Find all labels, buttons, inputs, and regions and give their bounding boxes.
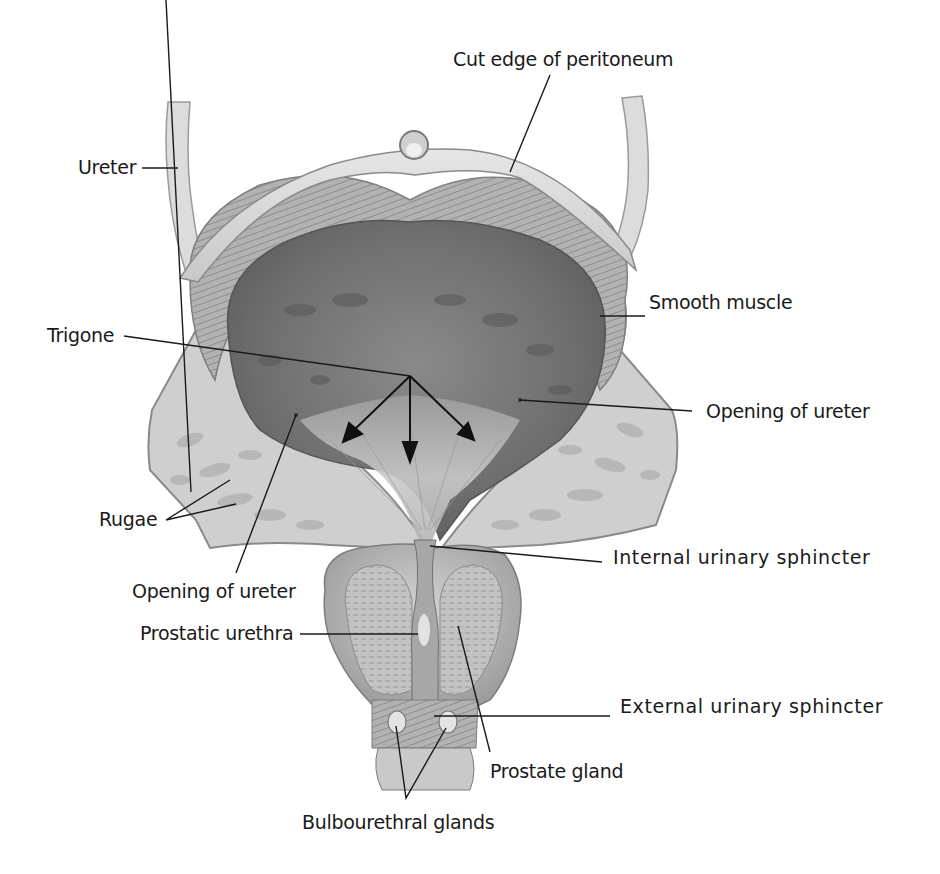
label-ureter: Ureter <box>78 158 136 177</box>
label-internal-urinary-sphincter: Internal urinary sphincter <box>613 548 871 567</box>
label-rugae: Rugae <box>99 510 157 529</box>
label-smooth-muscle: Smooth muscle <box>649 293 792 312</box>
label-bulbourethral-glands: Bulbourethral glands <box>302 813 494 832</box>
label-cut-edge-of-peritoneum: Cut edge of peritoneum <box>453 50 673 69</box>
label-opening-of-ureter-right: Opening of ureter <box>706 402 870 421</box>
bladder-anatomy-diagram <box>0 0 940 874</box>
external-sphincter <box>372 700 478 790</box>
label-prostatic-urethra: Prostatic urethra <box>140 624 293 643</box>
bulbourethral-gland-right <box>439 711 457 733</box>
label-trigone: Trigone <box>47 326 114 345</box>
label-prostate-gland: Prostate gland <box>490 762 623 781</box>
leader-cut-edge-peritoneum <box>510 75 550 172</box>
label-opening-of-ureter-left: Opening of ureter <box>132 582 296 601</box>
label-external-urinary-sphincter: External urinary sphincter <box>620 697 883 716</box>
